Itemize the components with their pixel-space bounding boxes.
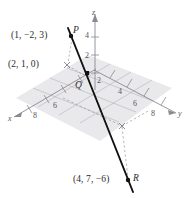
point-marker-q bbox=[85, 71, 89, 75]
z-axis-label: z bbox=[92, 9, 95, 17]
point-marker-r bbox=[126, 178, 130, 182]
point-p-coordinate-label: (1, −2, 3) bbox=[11, 31, 47, 41]
y-tick-label-6: 6 bbox=[133, 100, 137, 108]
z-tick-label-4: 4 bbox=[85, 32, 89, 40]
point-q-letter-label: Q bbox=[75, 81, 82, 91]
y-tick-label-4: 4 bbox=[118, 88, 122, 96]
point-q-coordinate-label: (2, 1, 0) bbox=[8, 60, 39, 70]
x-axis-label: x bbox=[8, 115, 12, 123]
figure-3d-coordinate-diagram: (1, −2, 3) P (2, 1, 0) Q (4, 7, −6) R x … bbox=[0, 0, 189, 198]
y-tick-label-8: 8 bbox=[151, 110, 155, 118]
y-tick-label-2: 2 bbox=[97, 77, 101, 85]
z-tick-label-2: 2 bbox=[85, 52, 89, 60]
x-tick-label-6: 6 bbox=[53, 102, 57, 110]
dashed-helper-p bbox=[68, 38, 72, 63]
y-axis-label: y bbox=[178, 110, 182, 118]
point-r-coordinate-label: (4, 7, −6) bbox=[73, 175, 109, 185]
point-r-letter-label: R bbox=[133, 174, 139, 184]
x-tick-label-8: 8 bbox=[33, 112, 37, 120]
xy-plane bbox=[16, 55, 172, 141]
point-p-letter-label: P bbox=[73, 26, 79, 36]
